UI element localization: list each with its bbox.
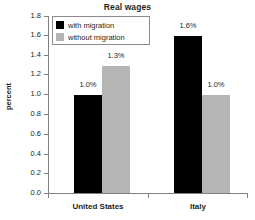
legend-item-without-migration[interactable]: without migration: [56, 31, 146, 43]
bar-label-italy-with-migration: 1.6%: [168, 21, 208, 30]
x-axis-tick: [247, 194, 248, 198]
y-axis-label: 1.2: [13, 70, 41, 78]
y-axis-label: 0.8: [13, 110, 41, 118]
y-axis-label: 0.0: [13, 189, 41, 197]
y-axis-label: 1.4: [13, 51, 41, 59]
legend-item-with-migration[interactable]: with migration: [56, 19, 146, 31]
legend-label-without-migration: without migration: [68, 33, 125, 42]
y-axis-label: 1.0: [13, 90, 41, 98]
x-axis-tick: [48, 194, 49, 198]
bar-italy-without-migration[interactable]: [202, 95, 230, 193]
bar-label-italy-without-migration: 1.0%: [196, 80, 236, 89]
bar-italy-with-migration[interactable]: [174, 36, 202, 193]
y-axis-label: 0.2: [13, 169, 41, 177]
y-axis-label: 0.4: [13, 150, 41, 158]
chart-container: Real wages percent 1.8 1.6 1.4 1.2 1.0 0…: [0, 0, 255, 220]
x-axis-category-italy: Italy: [148, 202, 248, 211]
y-axis-label: 1.8: [13, 12, 41, 20]
x-axis-category-united-states: United States: [48, 202, 148, 211]
y-axis-label: 0.6: [13, 130, 41, 138]
legend-swatch-icon: [56, 21, 64, 29]
chart-legend: with migration without migration: [52, 16, 150, 45]
x-axis-tick: [148, 194, 149, 198]
y-axis-label: 1.6: [13, 31, 41, 39]
bar-label-united-states-without-migration: 1.3%: [96, 51, 136, 60]
bar-label-united-states-with-migration: 1.0%: [68, 80, 108, 89]
bar-united-states-with-migration[interactable]: [74, 95, 102, 193]
legend-label-with-migration: with migration: [68, 21, 114, 30]
y-axis-title: percent: [4, 67, 13, 127]
legend-swatch-icon: [56, 33, 64, 41]
